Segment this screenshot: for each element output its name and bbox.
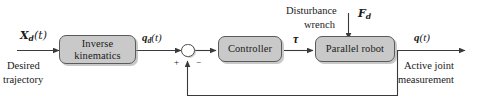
inverse-kinematics-label-line2: kinematics (74, 50, 121, 62)
inverse-kinematics-label-line1: Inverse (74, 38, 121, 50)
disturbance-caption-line2: wrench (304, 19, 335, 31)
inverse-kinematics-block[interactable]: Inverse kinematics (59, 35, 136, 64)
output-arg: (t) (420, 31, 430, 43)
summing-junction-minus-sign: − (196, 58, 201, 67)
input-signal-arg: (t) (34, 29, 47, 42)
controller-label: Controller (228, 43, 272, 55)
summing-junction-plus-sign: + (174, 58, 179, 67)
output-signal-label: q(t) (414, 31, 430, 44)
control-block-diagram: Inverse kinematics Controller Parallel r… (0, 0, 485, 112)
disturbance-base: F (358, 7, 366, 20)
summing-junction[interactable] (181, 44, 195, 58)
disturbance-caption-line1: Disturbance (286, 5, 337, 17)
output-caption-line1: Active joint (404, 60, 454, 72)
controller-block[interactable]: Controller (218, 36, 282, 62)
parallel-robot-label: Parallel robot (326, 43, 384, 55)
input-signal-base: X (20, 29, 29, 42)
input-caption-line1: Desired (7, 60, 40, 72)
parallel-robot-block[interactable]: Parallel robot (315, 36, 395, 62)
output-caption-line2: measurement (398, 74, 454, 86)
torque-signal-label: τ (293, 33, 298, 47)
desired-joint-arg: (t) (151, 31, 161, 43)
input-signal-label: Xd(t) (20, 30, 47, 44)
disturbance-subscript: d (366, 12, 371, 21)
input-caption-line2: trajectory (3, 74, 43, 86)
desired-joint-signal-label: qd(t) (142, 31, 162, 46)
disturbance-signal-label: Fd (358, 8, 371, 22)
